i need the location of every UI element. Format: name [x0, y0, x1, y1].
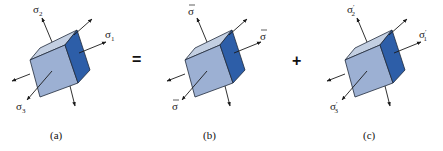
sigma2-arrow	[42, 18, 52, 42]
bottom-arrow	[385, 86, 390, 106]
stress-cube	[345, 30, 405, 97]
label-sigma3-prime: σ′3	[330, 100, 338, 115]
svg-text:σ: σ	[188, 5, 194, 17]
back-arrow	[74, 19, 92, 35]
label-sigma2-prime: σ′2	[347, 3, 355, 18]
label-sigma-bar-front: σ	[172, 100, 179, 112]
stress-cube	[30, 30, 90, 97]
stress-cube	[185, 30, 245, 97]
back-arrow	[229, 19, 247, 35]
label-sigma1: σ1	[105, 28, 115, 43]
caption-b: (b)	[203, 129, 216, 142]
panel-c: σ′2 σ′1 σ′3 (c)	[327, 3, 427, 142]
panel-b: σ σ σ (b)	[167, 5, 267, 142]
caption-a: (a)	[50, 129, 63, 142]
bottom-arrow	[70, 86, 75, 106]
label-sigma-bar-right: σ	[260, 30, 267, 42]
label-sigma1-prime: σ′1	[419, 28, 427, 43]
bottom-arrow	[225, 86, 230, 106]
left-arrow	[327, 74, 345, 81]
label-sigma2: σ2	[33, 3, 43, 18]
back-arrow	[389, 19, 407, 35]
stress-decomposition-diagram: σ2 σ1 σ3 (a) = σ σ σ (b) +	[0, 0, 443, 151]
plus-sign: +	[292, 52, 301, 69]
label-sigma3: σ3	[16, 100, 26, 115]
caption-c: (c)	[363, 129, 376, 142]
svg-text:σ: σ	[172, 100, 178, 112]
svg-text:σ: σ	[260, 30, 266, 42]
left-arrow	[12, 74, 30, 81]
panel-a: σ2 σ1 σ3 (a)	[12, 3, 115, 142]
sigma2-prime-arrow	[357, 18, 367, 42]
equals-sign: =	[132, 51, 141, 68]
label-sigma-bar-top: σ	[188, 5, 195, 17]
top-arrow	[197, 18, 207, 42]
left-arrow	[167, 74, 185, 81]
